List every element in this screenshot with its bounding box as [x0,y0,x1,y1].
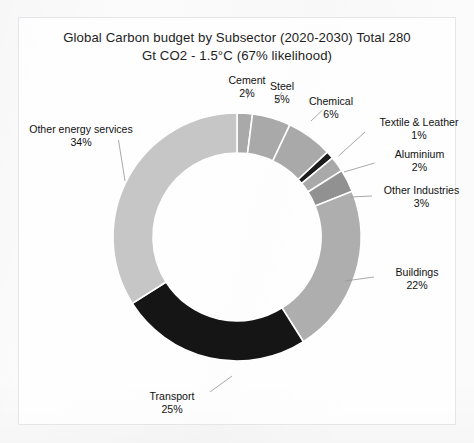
slice-label-transport-text: Transport [150,390,195,402]
slice-label-chemical: Chemical 6% [292,95,370,120]
slice-label-aluminium: Aluminium 2% [372,148,467,173]
slice-label-aluminium-value: 2% [372,161,467,174]
slice-label-other-energy-services-text: Other energy services [29,123,133,135]
slice-label-other-industries-text: Other Industries [384,184,459,196]
slice-label-chemical-text: Chemical [309,95,353,107]
slice-label-buildings-text: Buildings [396,266,439,278]
slice-label-chemical-value: 6% [292,108,370,121]
slice-label-other-energy-services-value: 34% [14,136,148,149]
slice-label-textile-leather-value: 1% [364,129,474,142]
slice-label-other-industries-value: 3% [369,197,474,210]
chart-title: Global Carbon budget by Subsector (2020-… [19,29,455,64]
slice-label-other-industries: Other Industries 3% [369,184,474,209]
slice-label-aluminium-text: Aluminium [395,148,444,160]
slice-label-transport: Transport 25% [128,390,216,415]
slice-label-textile-leather: Textile & Leather 1% [364,116,474,141]
slice-label-steel-text: Steel [270,80,294,92]
slice-label-transport-value: 25% [128,403,216,416]
slice-label-buildings: Buildings 22% [377,266,457,291]
slice-label-textile-leather-text: Textile & Leather [380,116,459,128]
slice-label-other-energy-services: Other energy services 34% [14,123,148,148]
slice-label-buildings-value: 22% [377,279,457,292]
